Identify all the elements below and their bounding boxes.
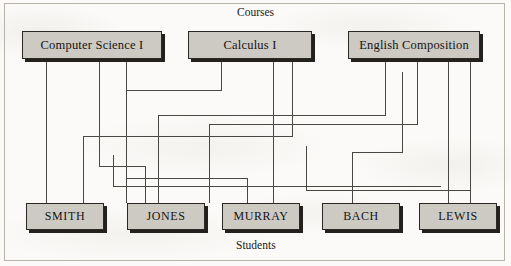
student-node-lewis[interactable]: LEWIS — [419, 203, 497, 230]
student-node-label: LEWIS — [438, 209, 478, 224]
student-node-bach[interactable]: BACH — [322, 203, 400, 230]
student-node-smith[interactable]: SMITH — [26, 203, 104, 230]
connector-calc1-to-smith — [83, 60, 292, 203]
connector-cs1-to-jones — [99, 60, 145, 203]
connector-cs1-to-lewis — [113, 155, 441, 186]
connector-engcomp-to-bach — [209, 60, 417, 203]
connector-engcomp-to-bach — [352, 72, 402, 203]
courses-caption: Courses — [237, 6, 274, 18]
connector-calc1-to-lewis — [306, 146, 470, 190]
connector-calc1-to-jones — [126, 60, 221, 203]
students-caption: Students — [236, 239, 276, 251]
course-node-cs1[interactable]: Computer Science I — [22, 31, 162, 59]
course-node-calc1[interactable]: Calculus I — [188, 31, 312, 59]
connector-engcomp-to-murray — [158, 60, 385, 203]
student-node-label: JONES — [146, 209, 185, 224]
student-node-label: MURRAY — [233, 209, 288, 224]
course-node-label: Computer Science I — [41, 38, 144, 53]
student-node-label: BACH — [343, 209, 379, 224]
course-node-engcomp[interactable]: English Composition — [348, 31, 480, 59]
connector-cs1-to-murray — [126, 60, 247, 203]
student-node-label: SMITH — [45, 209, 85, 224]
student-node-murray[interactable]: MURRAY — [222, 203, 300, 230]
course-node-label: English Composition — [359, 38, 469, 53]
relationship-diagram: Courses Students Computer Science ICalcu… — [0, 0, 511, 266]
course-node-label: Calculus I — [223, 38, 276, 53]
student-node-jones[interactable]: JONES — [127, 203, 205, 230]
